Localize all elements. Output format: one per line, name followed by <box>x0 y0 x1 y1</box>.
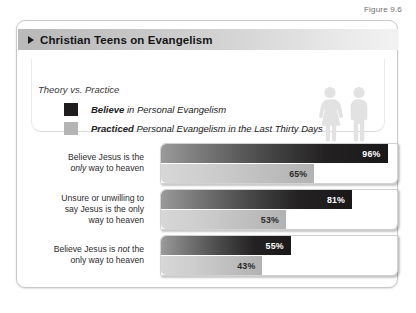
bar-value-believe-1: 81% <box>327 195 345 205</box>
bar-value-believe-0: 96% <box>362 149 380 159</box>
bar-value-practiced-0: 65% <box>289 169 307 179</box>
bar-group-2: Believe Jesus is not theonly way to heav… <box>18 235 398 277</box>
bar-group-0: Believe Jesus is theonly way to heaven 9… <box>18 143 398 185</box>
bar-practiced-0: 65% <box>161 164 314 183</box>
two-people-icon <box>314 85 376 143</box>
figure-label: Figure 9.6 <box>364 5 402 14</box>
bar-believe-0: 96% <box>161 144 388 163</box>
bar-group-2-label: Believe Jesus is not theonly way to heav… <box>26 244 144 266</box>
figure-card: Christian Teens on Evangelism Theory vs.… <box>16 20 398 288</box>
bar-value-practiced-2: 43% <box>237 261 255 271</box>
bar-practiced-1: 53% <box>161 210 286 229</box>
legend-label-practiced-emphasis: Practiced <box>91 123 134 134</box>
bar-practiced-2: 43% <box>161 256 262 275</box>
bar-group-1-label: Unsure or unwilling tosay Jesus is the o… <box>26 193 144 225</box>
bar-group-1: Unsure or unwilling tosay Jesus is the o… <box>18 189 398 231</box>
bar-group-0-label: Believe Jesus is theonly way to heaven <box>26 152 144 174</box>
bar-believe-2: 55% <box>161 236 291 255</box>
card-title: Christian Teens on Evangelism <box>40 34 213 46</box>
bar-value-believe-2: 55% <box>266 241 284 251</box>
bar-value-practiced-1: 53% <box>261 215 279 225</box>
legend-swatch-practiced <box>64 122 78 135</box>
bar-chart: Believe Jesus is theonly way to heaven 9… <box>18 141 398 287</box>
bar-believe-1: 81% <box>161 190 352 209</box>
legend-item-believe: Believe in Personal Evangelism <box>64 102 226 116</box>
legend-label-practiced: Practiced Personal Evangelism in the Las… <box>91 123 323 134</box>
legend-item-practiced: Practiced Personal Evangelism in the Las… <box>64 121 323 135</box>
card-title-bar: Christian Teens on Evangelism <box>18 29 398 50</box>
legend-swatch-believe <box>64 103 78 116</box>
legend-label-believe-rest: in Personal Evangelism <box>124 104 226 115</box>
triangle-right-icon <box>28 36 34 44</box>
legend-label-believe: Believe in Personal Evangelism <box>91 104 226 115</box>
legend-label-practiced-rest: Personal Evangelism in the Last Thirty D… <box>134 123 323 134</box>
bar-group-0-track: 96% 65% <box>160 143 398 184</box>
legend-label-believe-emphasis: Believe <box>91 104 124 115</box>
legend-subtitle: Theory vs. Practice <box>38 84 119 95</box>
bar-group-1-track: 81% 53% <box>160 189 398 230</box>
bar-group-2-track: 55% 43% <box>160 235 398 276</box>
legend-panel: Theory vs. Practice Believe in Personal … <box>18 51 398 139</box>
